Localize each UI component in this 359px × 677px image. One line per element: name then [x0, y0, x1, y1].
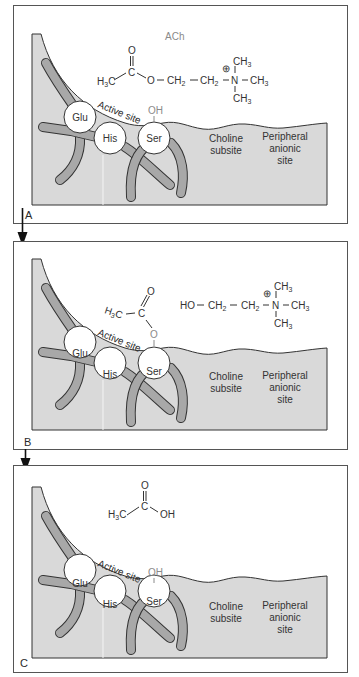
choline-subsite-line2: subsite: [210, 383, 242, 394]
residue-his: His: [103, 369, 117, 380]
peripheral-site-line2: anionic: [269, 612, 301, 623]
residue-glu: Glu: [72, 348, 88, 359]
positive-charge-icon: ⊕: [263, 288, 271, 299]
peripheral-site-line3: site: [277, 394, 293, 405]
ach-label: ACh: [165, 31, 184, 42]
peripheral-site-line1: Peripheral: [262, 370, 308, 381]
residue-his: His: [103, 599, 117, 610]
panel-c: Glu His Ser Active site OH Choline subsi…: [14, 466, 348, 673]
panel-a: Glu His Ser Active site OH Choline subsi…: [14, 6, 348, 224]
peripheral-site-line3: site: [277, 155, 293, 166]
panel-b: Glu His Ser Active site Choline subsite …: [14, 242, 348, 450]
choline-subsite-line1: Choline: [209, 133, 243, 144]
choline-subsite-line2: subsite: [210, 613, 242, 624]
panel-b-label: B: [24, 436, 31, 448]
positive-charge-icon: ⊕: [222, 63, 230, 74]
atom-o: O: [147, 286, 155, 297]
atom-ester-o: O: [147, 75, 155, 86]
ser-hydroxyl: OH: [148, 105, 163, 116]
choline-subsite-line2: subsite: [210, 145, 242, 156]
atom-c: C: [141, 501, 148, 512]
atom-c: C: [128, 67, 135, 78]
atom-n: N: [272, 300, 279, 311]
panel-a-label: A: [25, 209, 33, 221]
atom-n: N: [231, 75, 238, 86]
choline-subsite-line1: Choline: [209, 601, 243, 612]
atom-o: O: [141, 480, 149, 491]
choline-subsite-line1: Choline: [209, 371, 243, 382]
atom-o: O: [128, 45, 136, 56]
peripheral-site-line2: anionic: [269, 382, 301, 393]
peripheral-site-line1: Peripheral: [262, 600, 308, 611]
residue-glu: Glu: [72, 578, 88, 589]
hydroxyl: HO: [180, 300, 195, 311]
atom-c: C: [138, 308, 145, 319]
peripheral-site-line2: anionic: [269, 143, 301, 154]
ache-mechanism-diagram: Glu His Ser Active site OH Choline subsi…: [0, 0, 359, 677]
residue-glu: Glu: [72, 112, 88, 123]
peripheral-site-line3: site: [277, 624, 293, 635]
panel-c-label: C: [20, 657, 28, 669]
residue-his: His: [103, 133, 117, 144]
residue-ser: Ser: [146, 366, 162, 377]
residue-ser: Ser: [146, 133, 162, 144]
ser-hydroxyl: OH: [148, 567, 163, 578]
peripheral-site-line1: Peripheral: [262, 131, 308, 142]
residue-ser: Ser: [146, 596, 162, 607]
hydroxyl: OH: [160, 509, 175, 520]
ser-oxygen: O: [150, 329, 158, 340]
